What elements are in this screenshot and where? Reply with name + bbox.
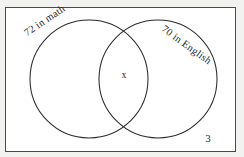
intersection-marker: x [118, 69, 130, 80]
circle-english [99, 20, 217, 138]
page-number: 3 [200, 132, 216, 144]
figure-root: 72 in math 70 in English x 3 [0, 0, 244, 157]
circle-math [30, 20, 148, 138]
